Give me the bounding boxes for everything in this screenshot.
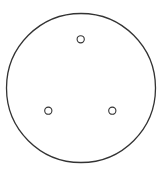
small-circle-bottom-right	[109, 107, 116, 114]
small-circle-bottom-left	[45, 107, 52, 114]
small-circle-top	[77, 36, 84, 43]
diagram-canvas	[0, 0, 163, 173]
